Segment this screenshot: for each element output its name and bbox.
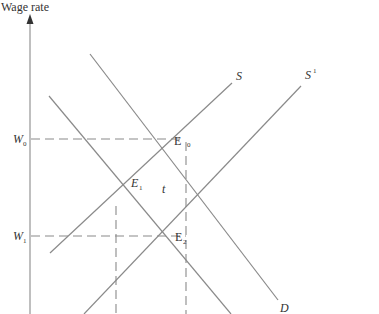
tax-label: t xyxy=(162,182,166,196)
e1-label: E xyxy=(130,176,139,190)
w0-subscript: 0 xyxy=(23,140,27,148)
supply-label: S xyxy=(236,69,242,83)
supply-shifted-superscript: 1 xyxy=(313,67,317,75)
e0-subscript: 0 xyxy=(187,141,191,149)
e1-subscript: 1 xyxy=(139,184,143,192)
e2-label: E xyxy=(175,230,182,244)
demand-curve-d xyxy=(90,54,278,300)
e2-subscript: 2 xyxy=(183,238,187,246)
tax-incidence-diagram: Wage rate S S 1 D W 0 W 1 E 0 E 1 E 2 t xyxy=(0,0,379,314)
e0-label-main: E xyxy=(174,134,181,148)
w1-subscript: 1 xyxy=(23,237,27,245)
demand-curve-lower xyxy=(49,96,231,314)
y-axis-label: Wage rate xyxy=(1,0,49,14)
demand-label: D xyxy=(279,301,289,314)
y-axis-arrow-icon xyxy=(27,14,34,24)
supply-shifted-label: S xyxy=(305,68,311,82)
supply-curve-s xyxy=(50,83,232,253)
